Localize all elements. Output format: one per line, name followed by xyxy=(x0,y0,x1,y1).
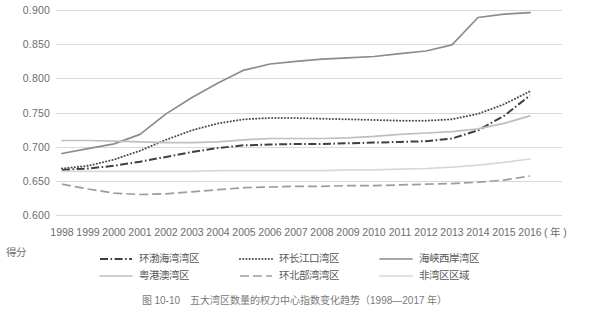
x-tick-2009: 2009 xyxy=(336,226,359,239)
x-tick-2003: 2003 xyxy=(180,226,203,239)
chart-legend: 环渤海湾湾区环长江口湾区海峡西岸湾区 粤港澳湾区环北部湾湾区非湾区区域 xyxy=(100,250,520,288)
legend-item-非湾区区域[interactable]: 非湾区区域 xyxy=(380,270,520,281)
legend-swatch-icon xyxy=(240,254,272,264)
legend-row-bottom: 粤港澳湾区环北部湾湾区非湾区区域 xyxy=(100,267,520,284)
legend-swatch-icon xyxy=(100,271,132,281)
legend-label: 环北部湾湾区 xyxy=(279,270,339,281)
legend-swatch-icon xyxy=(240,271,272,281)
legend-row-top: 环渤海湾湾区环长江口湾区海峡西岸湾区 xyxy=(100,250,520,267)
series-line-环长江口湾区 xyxy=(62,91,530,168)
x-tick-2000: 2000 xyxy=(102,226,125,239)
y-tick-0.700: 0.700 xyxy=(23,142,50,152)
figure-caption: 图 10-10 五大湾区数量的权力中心指数变化趋势（1998—2017 年） xyxy=(0,292,589,307)
legend-swatch-icon xyxy=(380,271,412,281)
y-tick-0.800: 0.800 xyxy=(23,73,50,83)
x-tick-1998: 1998 xyxy=(50,226,73,239)
series-lines xyxy=(56,0,562,232)
series-line-非湾区区域 xyxy=(62,159,530,171)
x-tick-2007: 2007 xyxy=(284,226,307,239)
y-tick-0.900: 0.900 xyxy=(23,5,50,15)
legend-swatch-icon xyxy=(380,254,412,264)
y-tick-0.850: 0.850 xyxy=(23,39,50,49)
figure-container: 0.6000.6500.7000.7500.8000.8500.900 1998… xyxy=(0,0,589,310)
y-tick-0.650: 0.650 xyxy=(23,176,50,186)
x-tick-2002: 2002 xyxy=(154,226,177,239)
x-tick-2004: 2004 xyxy=(206,226,229,239)
plot-area xyxy=(56,0,562,232)
x-tick-2012: 2012 xyxy=(414,226,437,239)
legend-item-粤港澳湾区[interactable]: 粤港澳湾区 xyxy=(100,270,240,281)
x-tick-2006: 2006 xyxy=(258,226,281,239)
series-line-环渤海湾湾区 xyxy=(62,95,530,169)
x-tick-2008: 2008 xyxy=(310,226,333,239)
legend-item-海峡西岸湾区[interactable]: 海峡西岸湾区 xyxy=(380,253,520,264)
legend-label: 海峡西岸湾区 xyxy=(419,253,479,264)
legend-item-环北部湾湾区[interactable]: 环北部湾湾区 xyxy=(240,270,380,281)
x-tick-2014: 2014 xyxy=(466,226,489,239)
x-tick-2001: 2001 xyxy=(128,226,151,239)
x-tick-2005: 2005 xyxy=(232,226,255,239)
y-tick-0.600: 0.600 xyxy=(23,210,50,220)
x-axis-tick-labels: 1998199920002001200220032004200520062007… xyxy=(0,226,589,246)
legend-label: 环长江口湾区 xyxy=(279,253,339,264)
y-tick-0.750: 0.750 xyxy=(23,108,50,118)
series-line-粤港澳湾区 xyxy=(62,116,530,143)
legend-label: 粤港澳湾区 xyxy=(139,270,189,281)
x-axis-unit-label: ( 年 ) xyxy=(544,226,567,239)
legend-item-环长江口湾区[interactable]: 环长江口湾区 xyxy=(240,253,380,264)
x-tick-1999: 1999 xyxy=(76,226,99,239)
legend-label: 环渤海湾湾区 xyxy=(139,253,199,264)
x-tick-2010: 2010 xyxy=(362,226,385,239)
x-tick-2013: 2013 xyxy=(440,226,463,239)
legend-label: 非湾区区域 xyxy=(419,270,469,281)
y-axis-tick-labels: 0.6000.6500.7000.7500.8000.8500.900 xyxy=(0,0,56,232)
plot-wrapper: 0.6000.6500.7000.7500.8000.8500.900 xyxy=(0,0,589,232)
series-line-海峡西岸湾区 xyxy=(62,13,530,154)
legend-swatch-icon xyxy=(100,254,132,264)
x-tick-2015: 2015 xyxy=(492,226,515,239)
x-tick-2011: 2011 xyxy=(389,226,412,239)
legend-item-环渤海湾湾区[interactable]: 环渤海湾湾区 xyxy=(100,253,240,264)
y-axis-title: 得分 xyxy=(6,244,26,259)
x-tick-2016: 2016 xyxy=(518,226,541,239)
series-line-环北部湾湾区 xyxy=(62,176,530,195)
